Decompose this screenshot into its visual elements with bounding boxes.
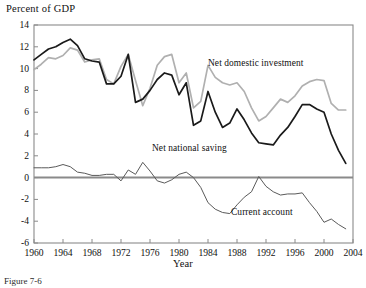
y-tick-label: 10 [3,63,29,74]
x-axis-title: Year [0,258,366,269]
y-tick-label: 0 [3,172,29,183]
y-tick-label: 4 [3,128,29,139]
y-tick-label: 2 [3,150,29,161]
y-tick-label: 6 [3,106,29,117]
series-label-current-account: Current account [231,207,293,217]
y-tick-label: -2 [3,193,29,204]
y-tick-label: -4 [3,215,29,226]
x-tick-label: 2004 [336,247,366,258]
figure-container: Percent of GDP 14121086420-2-4-6 1960196… [0,0,366,288]
y-tick-label: 14 [3,19,29,30]
figure-caption: Figure 7-6 [4,276,42,287]
y-tick-label: 8 [3,84,29,95]
y-tick-label: 12 [3,41,29,52]
series-label-net-domestic-investment: Net domestic investment [208,58,304,68]
series-label-net-national-saving: Net national saving [152,143,227,153]
